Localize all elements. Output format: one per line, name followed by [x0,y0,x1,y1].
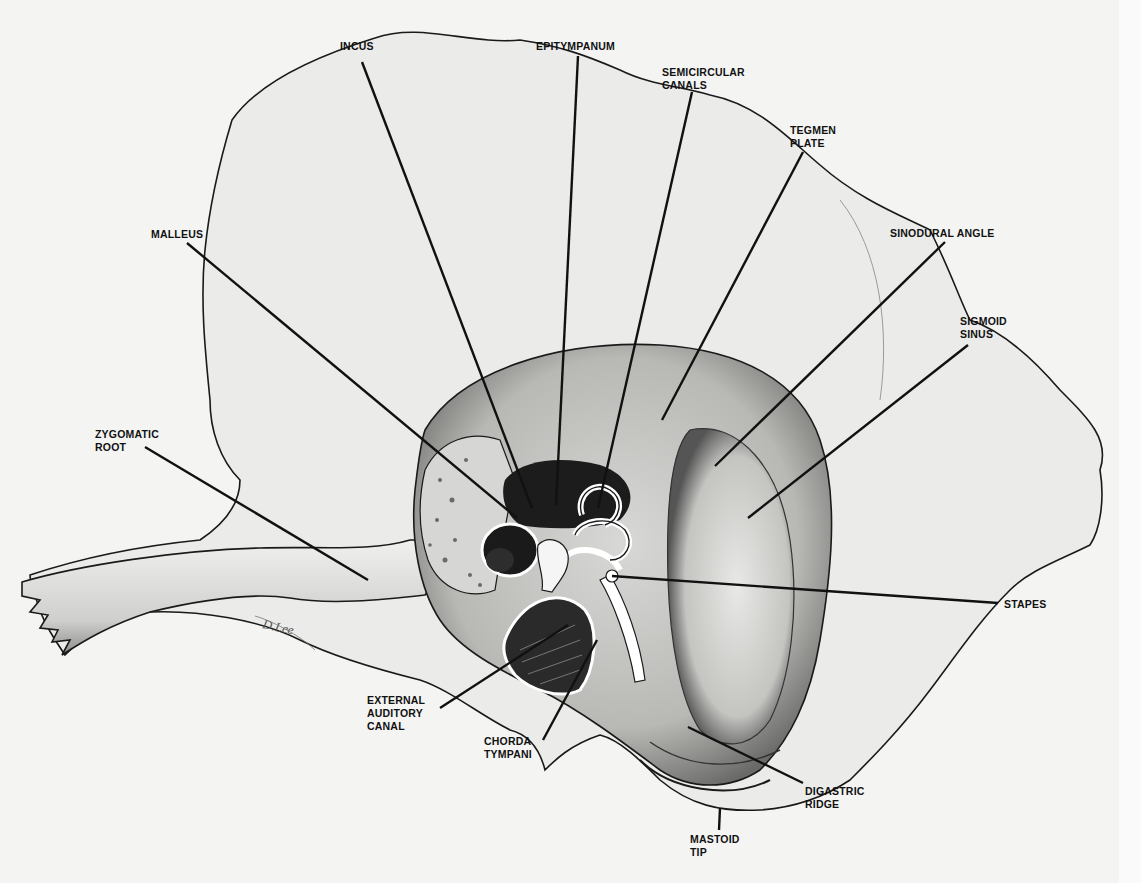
label-semicircular-canals: SEMICIRCULAR CANALS [662,66,745,92]
label-mastoid-tip: MASTOID TIP [690,833,740,859]
label-incus: INCUS [340,40,374,53]
label-stapes: STAPES [1004,598,1046,611]
label-external-auditory-canal: EXTERNAL AUDITORY CANAL [367,694,425,733]
label-sinodural-angle: SINODURAL ANGLE [890,227,995,240]
label-chorda-tympani: CHORDA TYMPANI [484,735,532,761]
label-epitympanum: EPITYMPANUM [536,40,615,53]
page-margin [1119,0,1141,883]
label-tegmen-plate: TEGMEN PLATE [790,124,836,150]
label-zygomatic-root: ZYGOMATIC ROOT [95,428,159,454]
label-sigmoid-sinus: SIGMOID SINUS [960,315,1007,341]
leader-line-mastoid-tip [719,808,720,830]
label-digastric-ridge: DIGASTRIC RIDGE [805,785,865,811]
label-malleus: MALLEUS [151,228,203,241]
temporal-bone-illustration: D.Lee [0,0,1141,883]
